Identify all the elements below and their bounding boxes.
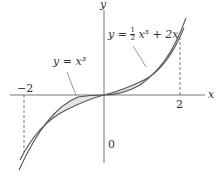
origin-label: 0 [108,138,115,151]
tick-label-2: 2 [176,98,183,111]
shaded-region-right [104,38,180,95]
shaded-region-left [24,95,104,152]
figure: y x −2 2 0 y = x³ y = 12 x³ + 2x [0,0,222,183]
leader-line-2 [133,46,146,67]
x-axis-label: x [208,88,214,101]
curve-label-x-cubed: y = x³ [53,55,86,68]
curve-half-cube-plus-2x [20,28,184,160]
y-axis-label: y [100,0,106,11]
curve-label-half-cube: y = 12 x³ + 2x [108,27,178,42]
leader-line-1 [67,72,76,95]
tick-label-neg-2: −2 [17,82,33,95]
